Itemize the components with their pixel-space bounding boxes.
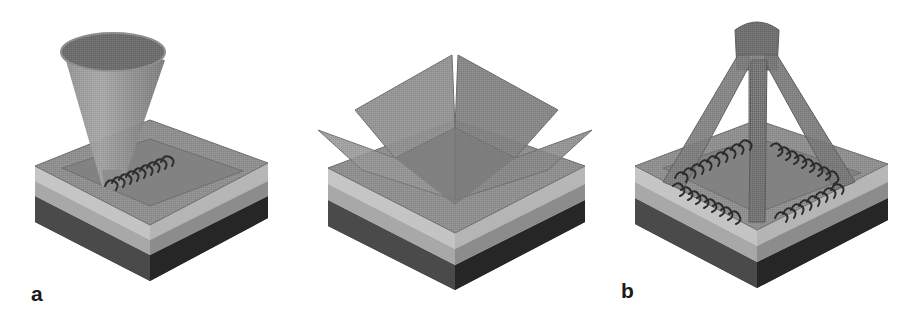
panel-label-a: a	[31, 283, 43, 304]
panel-a: a	[0, 0, 305, 325]
panel-b: b	[300, 0, 610, 325]
panel-c: c	[605, 0, 916, 325]
panel-c-illustration	[605, 0, 916, 325]
figure-root: a	[0, 0, 916, 325]
panel-a-illustration	[0, 0, 305, 325]
panel-b-illustration	[300, 0, 610, 325]
